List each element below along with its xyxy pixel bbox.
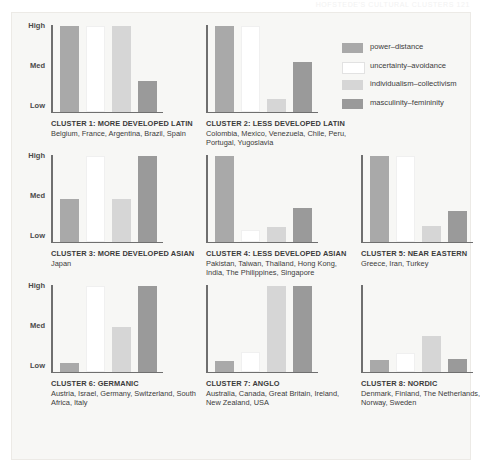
legend-item-individualism-collectivism: individualism–collectivism: [342, 78, 472, 97]
y-axis-line: [51, 285, 53, 373]
bar-individualism-collectivism: [422, 336, 441, 371]
bar-power-distance: [370, 156, 389, 242]
bar-uncertainty-avoidance: [241, 26, 260, 112]
y-axis-line: [361, 285, 363, 373]
y-axis-line: [361, 155, 363, 243]
bar-power-distance: [215, 156, 234, 242]
y-axis-ticklabels-6: High Med Low: [20, 285, 48, 373]
plot-area-8: [361, 285, 473, 373]
y-axis-line: [206, 285, 208, 373]
bar-masculinity-femininity: [448, 359, 467, 372]
bar-uncertainty-avoidance: [241, 230, 260, 241]
cluster-countries: Denmark, Finland, The Netherlands, Norwa…: [361, 389, 482, 408]
cluster-panel-1: High Med Low CLUSTER 1: MORE DEVELOPED L…: [20, 19, 167, 147]
cluster-panel-7: CLUSTER 7: ANGLO Australia, Canada, Grea…: [175, 279, 322, 407]
plot-area-6: High Med Low: [51, 285, 163, 373]
plot-area-7: [206, 285, 318, 373]
bar-power-distance: [60, 26, 79, 112]
y-tick-med: Med: [30, 322, 45, 330]
cluster-title: CLUSTER 5: NEAR EASTERN: [361, 249, 482, 259]
bar-masculinity-femininity: [448, 211, 467, 242]
cluster-panel-5: CLUSTER 5: NEAR EASTERN Greece, Iran, Tu…: [330, 149, 477, 277]
cluster-panel-6: High Med Low CLUSTER 6: GERMANIC Austria…: [20, 279, 167, 407]
bar-masculinity-femininity: [293, 208, 312, 242]
cluster-countries: Colombia, Mexico, Venezuela, Chile, Peru…: [206, 129, 352, 148]
x-axis-line: [51, 112, 163, 114]
bar-uncertainty-avoidance: [86, 26, 105, 112]
bar-masculinity-femininity: [293, 62, 312, 112]
legend: power–distance uncertainty–avoidance ind…: [342, 41, 472, 115]
cluster-panel-8: CLUSTER 8: NORDIC Denmark, Finland, The …: [330, 279, 477, 407]
y-axis-line: [206, 25, 208, 113]
plot-area-2: [206, 25, 318, 113]
bar-power-distance: [215, 26, 234, 112]
x-axis-line: [206, 242, 318, 244]
x-axis-line: [361, 372, 473, 374]
bar-power-distance: [60, 199, 79, 242]
legend-swatch-uncertainty-avoidance: [342, 62, 365, 74]
bar-individualism-collectivism: [112, 26, 131, 112]
y-tick-med: Med: [30, 62, 45, 70]
legend-swatch-masculinity-femininity: [342, 99, 363, 109]
y-tick-low: Low: [30, 102, 45, 110]
cluster-panel-4: CLUSTER 4: LESS DEVELOPED ASIAN Pakistan…: [175, 149, 322, 277]
legend-label-masculinity-femininity: masculinity–femininity: [370, 98, 444, 107]
cluster-caption-5: CLUSTER 5: NEAR EASTERN Greece, Iran, Tu…: [361, 249, 482, 268]
legend-label-uncertainty-avoidance: uncertainty–avoidance: [370, 61, 446, 70]
bar-group-1: [54, 26, 162, 112]
plot-area-4: [206, 155, 318, 243]
cluster-panel-3: High Med Low CLUSTER 3: MORE DEVELOPED A…: [20, 149, 167, 277]
legend-item-uncertainty-avoidance: uncertainty–avoidance: [342, 60, 472, 79]
legend-swatch-individualism-collectivism: [342, 80, 363, 90]
bar-individualism-collectivism: [267, 286, 286, 372]
bar-individualism-collectivism: [112, 327, 131, 372]
bar-individualism-collectivism: [422, 226, 441, 241]
y-tick-med: Med: [30, 192, 45, 200]
y-tick-high: High: [28, 152, 45, 160]
bar-power-distance: [215, 361, 234, 371]
y-axis-line: [51, 25, 53, 113]
bar-uncertainty-avoidance: [241, 352, 260, 372]
x-axis-line: [361, 242, 473, 244]
bar-power-distance: [370, 360, 389, 371]
bar-masculinity-femininity: [138, 286, 157, 372]
bar-group-3: [54, 156, 162, 242]
page-running-header: HOFSTEDE'S CULTURAL CLUSTERS 121: [316, 1, 470, 8]
legend-label-power-distance: power–distance: [370, 42, 423, 51]
y-tick-high: High: [28, 282, 45, 290]
x-axis-line: [206, 372, 318, 374]
bar-masculinity-femininity: [138, 81, 157, 111]
cluster-title: CLUSTER 2: LESS DEVELOPED LATIN: [206, 119, 356, 129]
bar-uncertainty-avoidance: [396, 353, 415, 371]
bar-uncertainty-avoidance: [86, 286, 105, 372]
figure-frame: High Med Low CLUSTER 1: MORE DEVELOPED L…: [11, 12, 471, 460]
bar-individualism-collectivism: [267, 227, 286, 242]
legend-item-masculinity-femininity: masculinity–femininity: [342, 97, 472, 116]
cluster-caption-2: CLUSTER 2: LESS DEVELOPED LATIN Colombia…: [206, 119, 356, 148]
bar-individualism-collectivism: [112, 199, 131, 241]
bar-masculinity-femininity: [293, 286, 312, 372]
y-tick-high: High: [28, 22, 45, 30]
bar-group-2: [209, 26, 317, 112]
legend-label-individualism-collectivism: individualism–collectivism: [370, 79, 457, 88]
bar-uncertainty-avoidance: [86, 156, 105, 242]
y-axis-line: [51, 155, 53, 243]
cluster-countries: Greece, Iran, Turkey: [361, 259, 482, 269]
y-tick-low: Low: [30, 362, 45, 370]
cluster-caption-8: CLUSTER 8: NORDIC Denmark, Finland, The …: [361, 379, 482, 408]
bar-group-8: [364, 286, 472, 372]
legend-swatch-power-distance: [342, 43, 363, 53]
bar-uncertainty-avoidance: [396, 156, 415, 242]
legend-item-power-distance: power–distance: [342, 41, 472, 60]
bar-group-4: [209, 156, 317, 242]
x-axis-line: [51, 242, 163, 244]
y-tick-low: Low: [30, 232, 45, 240]
plot-area-3: High Med Low: [51, 155, 163, 243]
bar-group-5: [364, 156, 472, 242]
y-axis-ticklabels-3: High Med Low: [20, 155, 48, 243]
x-axis-line: [51, 372, 163, 374]
bar-masculinity-femininity: [138, 156, 157, 242]
bar-group-7: [209, 286, 317, 372]
bar-group-6: [54, 286, 162, 372]
cluster-title: CLUSTER 8: NORDIC: [361, 379, 482, 389]
